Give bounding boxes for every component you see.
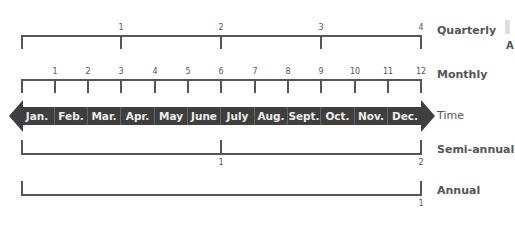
monthly-tick <box>187 79 189 93</box>
month-cell: Feb. <box>54 107 87 125</box>
annual-num: 1 <box>411 199 431 208</box>
monthly-num: 1 <box>45 67 65 76</box>
annual-tick-start <box>21 181 23 195</box>
monthly-tick <box>220 79 222 93</box>
monthly-num: 2 <box>78 67 98 76</box>
monthly-tick <box>387 79 389 93</box>
month-cell: Oct. <box>320 107 354 125</box>
monthly-tick <box>54 79 56 93</box>
monthly-tick <box>120 79 122 93</box>
annual-tick-1 <box>420 181 422 195</box>
month-cell: Nov. <box>354 107 387 125</box>
monthly-num: 9 <box>311 67 331 76</box>
quarterly-num: 4 <box>411 23 431 32</box>
quarterly-label: Quarterly <box>437 24 496 37</box>
semiannual-baseline <box>21 153 422 155</box>
month-cell: Dec. <box>387 107 422 125</box>
monthly-num: 10 <box>345 67 365 76</box>
month-cell: May <box>154 107 187 125</box>
arrow-right-head-icon <box>421 100 435 132</box>
semiannual-tick-1 <box>220 140 222 154</box>
monthly-num: 6 <box>211 67 231 76</box>
quarterly-tick-1 <box>120 35 122 49</box>
month-cell: Apr. <box>120 107 154 125</box>
semiannual-num: 2 <box>411 158 431 167</box>
monthly-num: 7 <box>245 67 265 76</box>
monthly-num: 5 <box>178 67 198 76</box>
month-cell: Sept. <box>287 107 320 125</box>
month-cell: Mar. <box>87 107 120 125</box>
monthly-tick <box>87 79 89 93</box>
month-band: Jan. Feb. Mar. Apr. May June July Aug. S… <box>20 107 422 125</box>
monthly-num: 12 <box>411 67 431 76</box>
monthly-num: 11 <box>378 67 398 76</box>
semiannual-tick-2 <box>420 140 422 154</box>
quarterly-tick-start <box>21 35 23 49</box>
monthly-label: Monthly <box>437 68 487 81</box>
quarterly-num: 3 <box>311 23 331 32</box>
monthly-tick <box>154 79 156 93</box>
semiannual-tick-start <box>21 140 23 154</box>
semiannual-num: 1 <box>211 158 231 167</box>
quarterly-tick-2 <box>220 35 222 49</box>
annual-baseline <box>21 194 422 196</box>
edge-fragment-text: A <box>506 40 514 51</box>
monthly-tick <box>354 79 356 93</box>
monthly-num: 8 <box>278 67 298 76</box>
month-cell: June <box>187 107 220 125</box>
month-cell: Aug. <box>254 107 287 125</box>
month-cell: July <box>220 107 254 125</box>
quarterly-tick-4 <box>420 35 422 49</box>
quarterly-tick-3 <box>320 35 322 49</box>
quarterly-num: 2 <box>211 23 231 32</box>
semiannual-label: Semi-annual <box>437 143 514 156</box>
monthly-tick <box>287 79 289 93</box>
monthly-tick <box>320 79 322 93</box>
edge-fragment-box <box>505 20 510 34</box>
annual-label: Annual <box>437 184 480 197</box>
monthly-tick <box>420 79 422 93</box>
quarterly-num: 1 <box>111 23 131 32</box>
monthly-tick <box>254 79 256 93</box>
monthly-num: 4 <box>145 67 165 76</box>
time-label: Time <box>437 109 464 122</box>
monthly-tick-start <box>21 79 23 93</box>
month-cell: Jan. <box>20 107 54 125</box>
monthly-num: 3 <box>111 67 131 76</box>
